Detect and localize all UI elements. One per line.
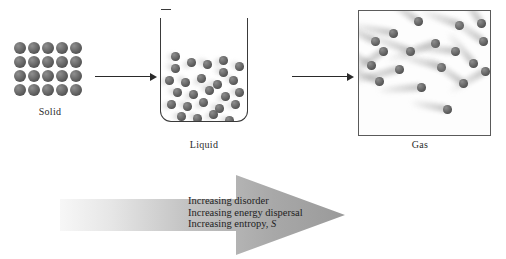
particle bbox=[375, 77, 384, 86]
particle bbox=[173, 88, 182, 97]
particle bbox=[171, 52, 180, 61]
liquid-beaker-container bbox=[160, 18, 248, 122]
particle bbox=[235, 62, 244, 71]
solid-particle bbox=[28, 42, 40, 54]
transition-arrow-solid-to-liquid bbox=[95, 73, 157, 81]
entropy-direction-arrow: Increasing disorder Increasing energy di… bbox=[60, 171, 345, 259]
particle bbox=[459, 79, 468, 88]
particle bbox=[417, 83, 426, 92]
phase-label-solid: Solid bbox=[14, 106, 86, 117]
diagram-canvas: Solid Liquid Gas bbox=[0, 0, 506, 259]
particle bbox=[209, 110, 218, 119]
particle bbox=[389, 29, 398, 38]
particle bbox=[213, 80, 222, 89]
solid-particle bbox=[14, 42, 26, 54]
entropy-symbol: S bbox=[271, 218, 276, 229]
entropy-line-3-text: Increasing entropy, bbox=[188, 218, 271, 229]
solid-particle bbox=[42, 56, 54, 68]
phase-label-gas: Gas bbox=[384, 139, 456, 150]
particle bbox=[235, 88, 244, 97]
particle bbox=[469, 59, 478, 68]
particle bbox=[165, 76, 174, 85]
particle bbox=[231, 100, 240, 109]
particle bbox=[219, 56, 228, 65]
entropy-line-1: Increasing disorder bbox=[188, 195, 303, 207]
entropy-line-3: Increasing entropy, S bbox=[188, 218, 303, 230]
lattice-row bbox=[13, 55, 87, 69]
arrow-head-icon bbox=[347, 73, 354, 81]
particle bbox=[219, 68, 228, 77]
particle bbox=[443, 105, 452, 114]
solid-particle bbox=[28, 84, 40, 96]
solid-particle bbox=[56, 84, 68, 96]
particle bbox=[205, 86, 214, 95]
solid-particle bbox=[14, 70, 26, 82]
solid-particle bbox=[28, 56, 40, 68]
motion-trail bbox=[379, 84, 421, 94]
particle bbox=[481, 67, 490, 76]
particle bbox=[477, 19, 486, 28]
solid-particle bbox=[70, 56, 82, 68]
particle bbox=[171, 64, 180, 73]
particle bbox=[367, 61, 376, 70]
solid-particle bbox=[70, 84, 82, 96]
particle bbox=[181, 78, 190, 87]
solid-particle bbox=[70, 42, 82, 54]
solid-particle bbox=[42, 84, 54, 96]
lattice-row bbox=[13, 69, 87, 83]
solid-particle bbox=[28, 70, 40, 82]
lattice-row bbox=[13, 83, 87, 97]
particle bbox=[414, 17, 423, 26]
liquid-particles bbox=[161, 18, 247, 121]
entropy-arrow-text: Increasing disorder Increasing energy di… bbox=[188, 195, 303, 230]
solid-particle bbox=[70, 70, 82, 82]
transition-arrow-liquid-to-gas bbox=[292, 73, 354, 81]
particle bbox=[225, 116, 234, 121]
particle bbox=[189, 90, 198, 99]
arrow-shaft bbox=[292, 76, 348, 77]
particle bbox=[199, 98, 208, 107]
gas-box-container bbox=[358, 10, 491, 136]
solid-lattice bbox=[13, 41, 87, 101]
lattice-row bbox=[13, 41, 87, 55]
particle bbox=[193, 114, 202, 121]
solid-particle bbox=[14, 84, 26, 96]
particle bbox=[229, 76, 238, 85]
particle bbox=[177, 112, 186, 121]
particle bbox=[197, 74, 206, 83]
solid-particle bbox=[56, 56, 68, 68]
particle bbox=[167, 100, 176, 109]
solid-particle bbox=[42, 70, 54, 82]
solid-particle bbox=[56, 70, 68, 82]
entropy-line-2: Increasing energy dispersal bbox=[188, 207, 303, 219]
particle bbox=[395, 65, 404, 74]
solid-particle bbox=[56, 42, 68, 54]
solid-particle bbox=[42, 42, 54, 54]
particle bbox=[203, 60, 212, 69]
particle bbox=[183, 102, 192, 111]
arrow-shaft bbox=[95, 76, 151, 77]
particle bbox=[379, 47, 388, 56]
solid-particle bbox=[14, 56, 26, 68]
phase-label-liquid: Liquid bbox=[168, 139, 240, 150]
particle bbox=[479, 37, 488, 46]
arrow-head-icon bbox=[150, 73, 157, 81]
motion-trail bbox=[413, 44, 455, 54]
particle bbox=[187, 58, 196, 67]
